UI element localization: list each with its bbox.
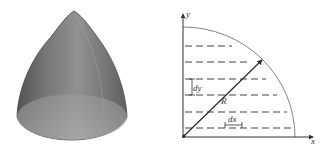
- origin-dot: [183, 135, 186, 138]
- dy-label: dy: [193, 83, 202, 93]
- dx-label: dx: [228, 114, 237, 124]
- y-axis-label: y: [185, 9, 190, 19]
- radius-label: R: [220, 96, 227, 106]
- x-axis-label: x: [310, 136, 315, 146]
- paraboloid-base: [17, 94, 127, 140]
- paraboloid-solid: [17, 11, 127, 140]
- figure: y x R dy dx: [0, 0, 331, 151]
- quarter-circle-diagram: y x R dy dx: [182, 9, 315, 146]
